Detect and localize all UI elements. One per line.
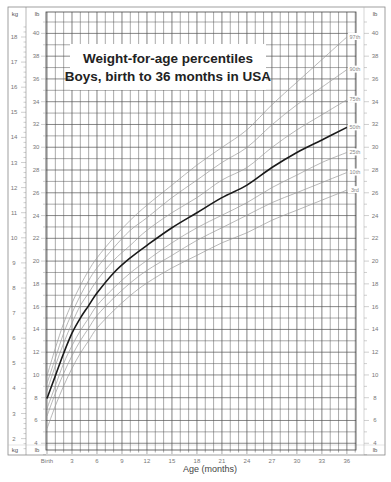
kg-tick-label: 16 (11, 84, 18, 90)
kg-tick-label: 14 (11, 134, 18, 140)
percentile-label-50th: 50th (350, 124, 361, 130)
x-tick-label: 12 (144, 458, 151, 464)
title-box: Weight-for-age percentiles Boys, birth t… (65, 44, 272, 90)
kg-unit-top: kg (12, 11, 18, 17)
kg-tick-label: 17 (11, 59, 18, 65)
percentile-label-97th: 97th (350, 34, 361, 40)
lb-tick-label-right: 12 (372, 349, 379, 355)
lb-tick-label-right: 34 (372, 99, 379, 105)
lb-tick-label-left: 24 (33, 213, 40, 219)
chart-title: Weight-for-age percentiles (83, 51, 253, 66)
lb-tick-label-right: 36 (372, 76, 379, 82)
lb-tick-label-left: 12 (33, 349, 40, 355)
lb-tick-label-left: 18 (33, 281, 40, 287)
lb-tick-label-left: 26 (33, 190, 40, 196)
kg-tick-label: 15 (11, 109, 18, 115)
lb-tick-label-left: 34 (33, 99, 40, 105)
lb-tick-label-right: 22 (372, 235, 379, 241)
lb-tick-label-right: 28 (372, 167, 379, 173)
lb-tick-label-left: 10 (33, 372, 40, 378)
lb-tick-label-left: 22 (33, 235, 40, 241)
kg-tick-label: 13 (11, 160, 18, 166)
lb-tick-label-right: 38 (372, 53, 379, 59)
lb-tick-label-right: 16 (372, 304, 379, 310)
kg-unit-bottom: kg (12, 447, 18, 453)
kg-tick-label: 11 (11, 210, 18, 216)
lb-tick-label-right: 32 (372, 121, 379, 127)
percentile-label-10th: 10th (350, 169, 361, 175)
lb-unit-right-top: lb (373, 11, 378, 17)
lb-tick-label-right: 30 (372, 144, 379, 150)
lb-tick-label-right: 26 (372, 190, 379, 196)
lb-tick-label-right: 40 (372, 30, 379, 36)
chart-subtitle: Boys, birth to 36 months in USA (65, 69, 272, 84)
lb-unit-top: lb (35, 11, 40, 17)
x-axis-label: Age (months) (183, 464, 237, 474)
lb-tick-label-right: 14 (372, 326, 379, 332)
lb-unit-bottom: lb (35, 447, 40, 453)
percentile-label-25th: 25th (350, 149, 361, 155)
lb-tick-label-left: 30 (33, 144, 40, 150)
lb-tick-label-left: 36 (33, 76, 40, 82)
lb-tick-label-right: 10 (372, 372, 379, 378)
x-tick-label: 24 (244, 458, 251, 464)
lb-tick-label-right: 20 (372, 258, 379, 264)
kg-tick-label: 10 (11, 235, 18, 241)
kg-tick-label: 18 (11, 34, 18, 40)
kg-tick-label: 12 (11, 185, 18, 191)
lb-tick-label-left: 16 (33, 304, 40, 310)
x-tick-label: 30 (294, 458, 301, 464)
percentile-label-75th: 75th (350, 96, 361, 102)
lb-tick-label-left: 40 (33, 30, 40, 36)
growth-chart: 2345678910111213141516171846810121416182… (0, 0, 391, 482)
lb-tick-label-left: 28 (33, 167, 40, 173)
lb-tick-label-right: 24 (372, 213, 379, 219)
x-tick-label: 15 (169, 458, 176, 464)
lb-tick-label-right: 18 (372, 281, 379, 287)
x-tick-label: 36 (344, 458, 351, 464)
x-tick-label: 27 (269, 458, 276, 464)
percentile-label-90th: 90th (350, 66, 361, 72)
lb-tick-label-left: 20 (33, 258, 40, 264)
lb-unit-right-bottom: lb (373, 447, 378, 453)
x-tick-label: 33 (319, 458, 326, 464)
lb-tick-label-left: 14 (33, 326, 40, 332)
lb-tick-label-left: 32 (33, 121, 40, 127)
percentile-label-3rd: 3rd (351, 187, 359, 193)
lb-tick-label-left: 38 (33, 53, 40, 59)
x-tick-label: Birth (41, 458, 53, 464)
